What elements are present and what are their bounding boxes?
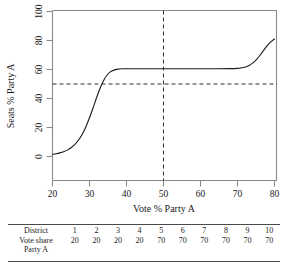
x-axis-ticks (53, 181, 275, 187)
district-vote-table: District 1 2 3 4 5 6 7 8 9 10 Vote share… (8, 224, 280, 262)
row-label-district: District (8, 226, 64, 236)
seats-votes-figure: 0 20 40 60 80 100 20 30 40 50 60 70 80 V… (0, 0, 288, 265)
cell-vote-share-7: 70 (194, 236, 216, 246)
cell-vote-share-9: 70 (237, 236, 259, 246)
cell-district-3: 3 (107, 226, 129, 236)
x-tick-label-70: 70 (233, 189, 243, 199)
cell-vote-share-3: 20 (107, 236, 129, 246)
cell-vote-share-8: 70 (215, 236, 237, 246)
y-axis-title: Seats % Party A (5, 63, 16, 128)
x-tick-label-40: 40 (122, 189, 132, 199)
cell-district-10: 10 (258, 226, 280, 236)
table-row-spacer (64, 245, 280, 255)
y-tick-label-0: 0 (34, 154, 44, 159)
x-tick-label-50: 50 (159, 189, 169, 199)
table-rule-top (8, 224, 280, 225)
y-tick-label-40: 40 (34, 94, 44, 104)
cell-district-8: 8 (215, 226, 237, 236)
x-tick-label-30: 30 (85, 189, 95, 199)
table-rule-bottom (8, 261, 280, 262)
cell-district-6: 6 (172, 226, 194, 236)
x-tick-label-20: 20 (48, 189, 58, 199)
cell-vote-share-1: 20 (64, 236, 86, 246)
x-axis-title: Vote % Party A (133, 203, 196, 214)
y-tick-label-20: 20 (34, 123, 44, 133)
x-tick-label-80: 80 (270, 189, 280, 199)
cell-vote-share-10: 70 (258, 236, 280, 246)
cell-vote-share-6: 70 (172, 236, 194, 246)
table-row-district: District 1 2 3 4 5 6 7 8 9 10 (8, 226, 280, 236)
y-tick-labels: 0 20 40 60 80 100 (34, 4, 44, 159)
x-tick-labels: 20 30 40 50 60 70 80 (48, 189, 280, 199)
y-tick-label-60: 60 (34, 65, 44, 75)
cell-vote-share-4: 20 (129, 236, 151, 246)
cell-district-7: 7 (194, 226, 216, 236)
cell-district-1: 1 (64, 226, 86, 236)
plot-panel (52, 10, 277, 180)
cell-district-4: 4 (129, 226, 151, 236)
cell-vote-share-5: 70 (150, 236, 172, 246)
cell-vote-share-2: 20 (86, 236, 108, 246)
table-body: District 1 2 3 4 5 6 7 8 9 10 Vote share… (8, 226, 280, 255)
row-label-vote-share: Vote share (8, 236, 64, 246)
row-label-vote-share-line2: Party A (8, 245, 64, 255)
x-tick-label-60: 60 (196, 189, 206, 199)
y-tick-label-100: 100 (34, 4, 44, 19)
seats-votes-plot: 0 20 40 60 80 100 20 30 40 50 60 70 80 V… (0, 0, 288, 225)
y-tick-label-80: 80 (34, 36, 44, 46)
table-row-vote-share: Vote share 20 20 20 20 70 70 70 70 70 70 (8, 236, 280, 246)
cell-district-5: 5 (150, 226, 172, 236)
table-row-vote-share-cont: Party A (8, 245, 280, 255)
y-axis-ticks (47, 12, 53, 157)
cell-district-9: 9 (237, 226, 259, 236)
cell-district-2: 2 (86, 226, 108, 236)
